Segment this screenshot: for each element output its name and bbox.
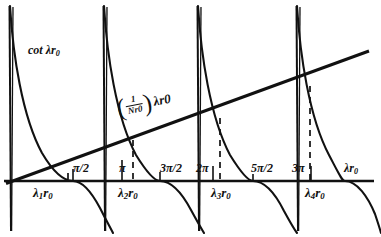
formula-tail: λr0 bbox=[152, 90, 172, 109]
formula-denominator-subscript: 0 bbox=[137, 103, 143, 114]
tick-mark-group bbox=[73, 160, 311, 181]
root-label-lambda-4-r0: λ4r0 bbox=[305, 186, 325, 201]
tick-label-five-pi-over-2: 5π/2 bbox=[251, 162, 273, 174]
tick-label-pi: π bbox=[119, 162, 126, 174]
tick-label-pi-over-2: π/2 bbox=[73, 162, 89, 174]
root-tail-sub-3: 0 bbox=[226, 191, 230, 201]
cot-curve-label-text: cot λr bbox=[28, 43, 56, 57]
asymptote-group bbox=[10, 6, 301, 231]
figure-root: cot λr0 ( 1 Nr0 ) λr0 π/2 π 3π/2 2π 5π/2… bbox=[0, 0, 381, 237]
root-label-lambda-1-r0: λ1r0 bbox=[33, 186, 53, 201]
root-label-lambda-3-r0: λ3r0 bbox=[211, 186, 231, 201]
tick-label-three-pi-over-2: 3π/2 bbox=[160, 162, 182, 174]
cot-curve-group bbox=[10, 6, 381, 233]
root-tail-sub-4: 0 bbox=[320, 191, 324, 201]
x-axis-label-text: λr bbox=[344, 161, 354, 175]
tick-label-two-pi: 2π bbox=[196, 162, 209, 174]
root-label-lambda-2-r0: λ2r0 bbox=[118, 186, 138, 201]
cot-curve-label-subscript: 0 bbox=[56, 49, 60, 58]
root-tail-sub-2: 0 bbox=[133, 191, 137, 201]
cot-curve-label: cot λr0 bbox=[28, 44, 60, 58]
x-axis-label-subscript: 0 bbox=[354, 167, 358, 176]
x-axis-label: λr0 bbox=[344, 162, 358, 176]
root-tail-sub-1: 0 bbox=[48, 191, 52, 201]
tick-label-three-pi: 3π bbox=[292, 162, 305, 174]
formula-denominator: Nr0 bbox=[126, 104, 144, 116]
cot-branch-1 bbox=[10, 6, 113, 233]
